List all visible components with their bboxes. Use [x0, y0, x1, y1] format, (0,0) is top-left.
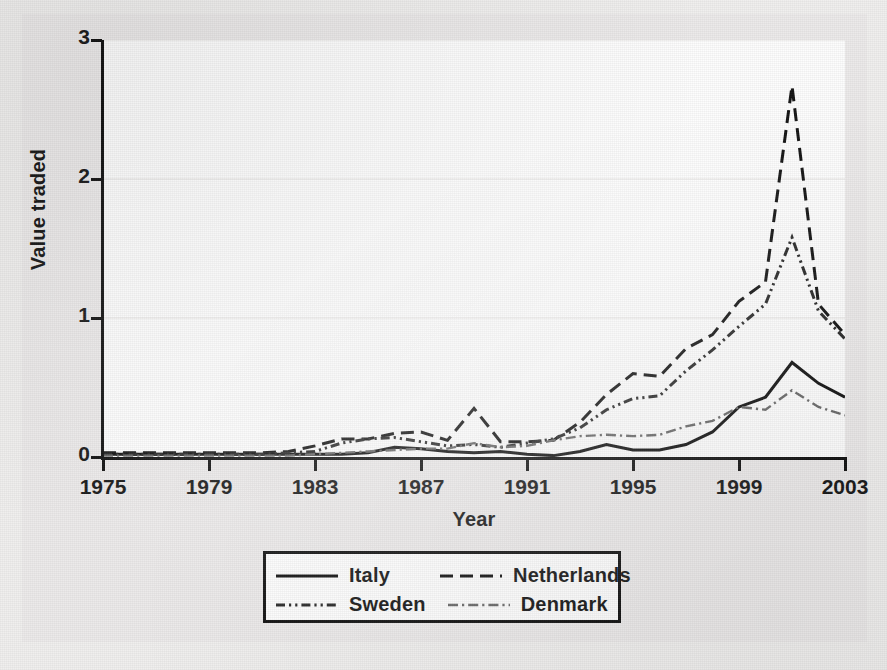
- x-tick-mark: [844, 460, 847, 471]
- x-tick-mark: [738, 460, 741, 471]
- legend-row: Sweden Denmark: [276, 590, 608, 619]
- x-tick-mark: [208, 460, 211, 471]
- y-axis-line: [101, 40, 104, 459]
- y-tick-mark: [91, 178, 102, 181]
- legend-swatch-italy: [276, 567, 338, 585]
- legend-label-italy: Italy: [349, 564, 390, 587]
- plot-area: [103, 40, 845, 457]
- y-tick-mark: [91, 317, 102, 320]
- x-tick-label: 2003: [805, 475, 885, 499]
- x-tick-label: 1979: [169, 475, 249, 499]
- x-tick-mark: [526, 460, 529, 471]
- y-tick-label: 2: [60, 164, 90, 188]
- x-tick-label: 1975: [63, 475, 143, 499]
- x-tick-label: 1999: [699, 475, 779, 499]
- series-line-sweden: [103, 237, 845, 454]
- x-tick-mark: [632, 460, 635, 471]
- x-tick-mark: [420, 460, 423, 471]
- y-tick-mark: [91, 456, 102, 459]
- legend-entry-italy[interactable]: Italy: [276, 564, 440, 587]
- x-tick-label: 1983: [275, 475, 355, 499]
- legend-swatch-denmark: [448, 596, 510, 614]
- legend-entry-sweden[interactable]: Sweden: [276, 593, 448, 616]
- legend-swatch-sweden: [276, 596, 338, 614]
- series-line-netherlands: [103, 86, 845, 453]
- y-tick-label: 3: [60, 25, 90, 49]
- x-tick-mark: [314, 460, 317, 471]
- x-tick-mark: [102, 460, 105, 471]
- figure-canvas: 0123 19751979198319871991199519992003 Va…: [0, 0, 887, 670]
- x-tick-label: 1995: [593, 475, 673, 499]
- legend-label-denmark: Denmark: [521, 593, 608, 616]
- y-tick-label: 1: [60, 303, 90, 327]
- x-tick-label: 1991: [487, 475, 567, 499]
- y-axis-title: Value traded: [27, 110, 50, 310]
- legend-entry-denmark[interactable]: Denmark: [448, 593, 608, 616]
- chart-legend: Italy Netherlands Sweden Denmark: [263, 551, 621, 623]
- x-axis-line: [101, 457, 847, 460]
- legend-row: Italy Netherlands: [276, 561, 608, 590]
- x-tick-label: 1987: [381, 475, 461, 499]
- series-line-denmark: [103, 390, 845, 455]
- y-tick-mark: [91, 39, 102, 42]
- legend-entry-netherlands[interactable]: Netherlands: [440, 564, 608, 587]
- legend-swatch-netherlands: [440, 567, 502, 585]
- legend-label-sweden: Sweden: [349, 593, 426, 616]
- x-axis-title: Year: [103, 508, 845, 531]
- legend-label-netherlands: Netherlands: [513, 564, 631, 587]
- y-tick-label: 0: [60, 442, 90, 466]
- series-canvas: [103, 40, 845, 457]
